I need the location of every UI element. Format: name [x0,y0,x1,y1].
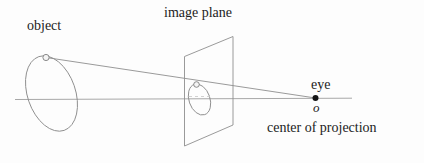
image-plane-label: image plane [164,6,232,20]
origin-label: o [313,101,320,114]
projection-ray-line [46,58,316,99]
projected-image-ellipse [184,81,214,118]
image-point-marker [194,82,200,88]
object-label: object [27,19,61,33]
optical-axis-line [15,98,352,99]
image-plane-quad [185,37,234,147]
projection-diagram-canvas [0,0,424,163]
center-of-projection-label: center of projection [267,121,377,135]
eye-label: eye [311,78,330,92]
object-point-marker [43,54,49,60]
